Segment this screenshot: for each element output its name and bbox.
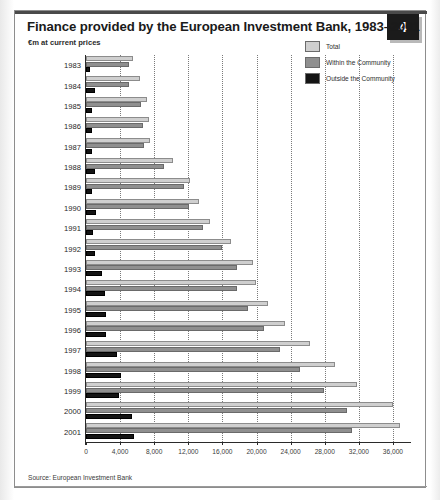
bar [86, 210, 96, 215]
bar [86, 373, 121, 378]
bottom-divider [15, 486, 427, 487]
bar [86, 428, 352, 433]
x-axis-tick-label: 20,000 [246, 448, 266, 455]
bar [86, 169, 95, 174]
bar [86, 97, 147, 102]
bar [86, 434, 134, 439]
bar [86, 362, 335, 367]
legend-label: Total [326, 43, 340, 50]
x-axis-tick [257, 442, 258, 445]
bar [86, 245, 222, 250]
y-axis-category-label: 1984 [41, 81, 81, 90]
y-axis-category-label: 1992 [41, 244, 81, 253]
title-divider [15, 11, 427, 14]
bar [86, 382, 357, 387]
bar [86, 143, 144, 148]
page-right-edge [430, 0, 440, 500]
bar [86, 260, 253, 265]
page-left-edge [0, 0, 14, 500]
bar [86, 414, 132, 419]
legend-item: Total [305, 41, 395, 52]
bar [86, 321, 285, 326]
bar [86, 117, 149, 122]
y-axis-category-label: 1998 [41, 366, 81, 375]
x-axis-tick [120, 442, 121, 445]
bar [86, 341, 310, 346]
bar [86, 423, 400, 428]
x-axis-line [86, 442, 411, 443]
bar [86, 402, 393, 407]
y-axis-category-label: 1999 [41, 387, 81, 396]
bar [86, 67, 90, 72]
bar [86, 251, 95, 256]
x-axis-tick [393, 442, 394, 445]
bar [86, 239, 231, 244]
x-axis-tick-label: 24,000 [281, 448, 301, 455]
bar [86, 189, 92, 194]
x-axis-tick [325, 442, 326, 445]
bar [86, 82, 129, 87]
chart-subtitle: €m at current prices [28, 38, 101, 47]
bar [86, 291, 105, 296]
y-axis-category-label: 1988 [41, 163, 81, 172]
bar [86, 199, 199, 204]
x-axis-tick [291, 442, 292, 445]
bar [86, 286, 237, 291]
bar [86, 128, 92, 133]
bar [86, 88, 95, 93]
y-axis-category-label: 1989 [41, 183, 81, 192]
x-axis-tick [86, 442, 87, 445]
bar [86, 123, 143, 128]
legend-swatch [305, 41, 320, 52]
bar [86, 306, 248, 311]
y-axis-category-label: 1997 [41, 346, 81, 355]
x-axis-tick [188, 442, 189, 445]
bar [86, 225, 203, 230]
figure-container: 4 Finance provided by the European Inves… [0, 0, 440, 500]
bar [86, 178, 190, 183]
bar [86, 108, 92, 113]
y-axis-category-label: 1986 [41, 122, 81, 131]
bar [86, 408, 347, 413]
bar [86, 280, 256, 285]
bar [86, 219, 210, 224]
y-axis-category-label: 1987 [41, 142, 81, 151]
bar [86, 62, 129, 67]
source-note: Source: European Investment Bank [28, 474, 132, 481]
x-axis-tick-label: 36,000 [383, 448, 403, 455]
bar [86, 265, 237, 270]
y-axis-category-label: 1991 [41, 224, 81, 233]
bar [86, 184, 184, 189]
y-axis-category-label: 2001 [41, 427, 81, 436]
bar [86, 312, 106, 317]
gridline [359, 55, 360, 442]
bar [86, 164, 164, 169]
bar [86, 393, 119, 398]
x-axis-tick-label: 4,000 [112, 448, 129, 455]
x-axis-tick-label: 8,000 [146, 448, 163, 455]
x-axis-tick [222, 442, 223, 445]
y-axis-category-label: 1983 [41, 61, 81, 70]
x-axis-tick-label: 12,000 [178, 448, 198, 455]
y-axis-category-label: 1993 [41, 264, 81, 273]
bar [86, 271, 102, 276]
bar [86, 347, 280, 352]
y-axis-category-label: 1996 [41, 325, 81, 334]
bar [86, 332, 106, 337]
bar [86, 230, 93, 235]
bar [86, 76, 140, 81]
bar [86, 367, 300, 372]
bar [86, 102, 141, 107]
plot-area [86, 55, 410, 442]
x-axis-tick [359, 442, 360, 445]
x-axis-tick-label: 0 [84, 448, 88, 455]
gridline [393, 55, 394, 442]
y-axis-category-label: 1995 [41, 305, 81, 314]
bar [86, 388, 324, 393]
y-axis-category-label: 1990 [41, 203, 81, 212]
chart-title: Finance provided by the European Investm… [27, 19, 420, 34]
y-axis-category-label: 1994 [41, 285, 81, 294]
bar [86, 158, 173, 163]
bar [86, 204, 189, 209]
y-axis-category-label: 1985 [41, 101, 81, 110]
